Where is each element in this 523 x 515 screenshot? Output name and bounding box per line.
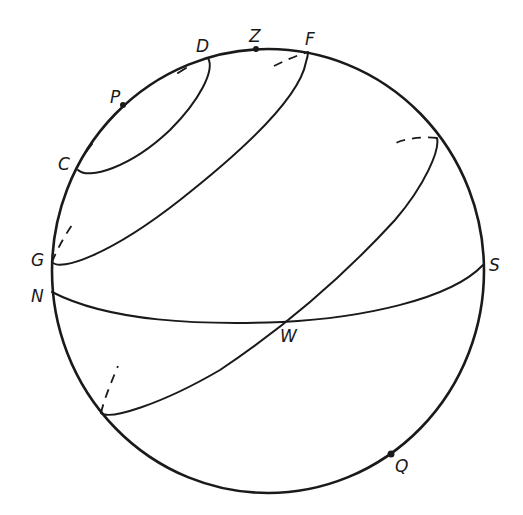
- celestial-equator: [101, 138, 437, 415]
- diurnal-circle-GF: [52, 52, 308, 265]
- pole-point-dot: [120, 102, 126, 108]
- celestial-equator-hidden-upper: [396, 137, 437, 143]
- label-N: N: [31, 286, 44, 306]
- label-P: P: [110, 87, 121, 107]
- q-point-dot: [388, 451, 395, 458]
- diurnal-circle-GF-hidden-near-F: [274, 52, 308, 66]
- small-diurnal-circle-CD: [78, 58, 210, 173]
- label-S: S: [489, 255, 500, 275]
- label-Q: Q: [395, 456, 408, 476]
- celestial-sphere-outline: [52, 49, 484, 493]
- label-W: W: [280, 326, 298, 346]
- label-D: D: [196, 36, 209, 56]
- label-F: F: [305, 29, 315, 49]
- label-G: G: [31, 250, 44, 270]
- celestial-equator-hidden-lower: [101, 366, 118, 413]
- horizon-circle: [52, 265, 483, 323]
- celestial-sphere-diagram: Z D F P C G N S W Q: [0, 0, 523, 515]
- label-C: C: [58, 154, 70, 174]
- zenith-point-dot: [253, 46, 259, 52]
- label-Z: Z: [248, 26, 261, 46]
